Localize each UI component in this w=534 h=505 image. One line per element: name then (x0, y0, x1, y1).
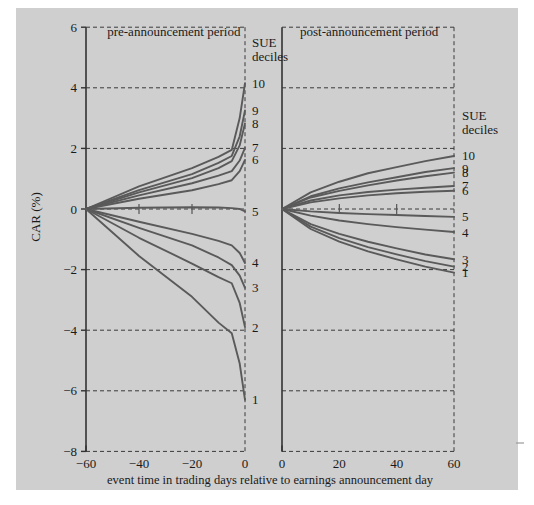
decile-label-pre-8: 8 (252, 116, 259, 131)
panel-title-pre: pre-announcement period (107, 24, 241, 39)
legend-title-post-line1: SUE (462, 108, 487, 123)
decile-label-pre-6: 6 (252, 152, 259, 167)
xtick-label-post-1: 20 (333, 456, 346, 471)
text-layer: −8−6−4−20246−60−40−2000204060event time … (28, 20, 498, 488)
xtick-label-pre-2: −20 (182, 456, 202, 471)
decile-label-pre-3: 3 (252, 280, 259, 295)
series-layer (86, 83, 454, 400)
xtick-label-post-2: 40 (390, 456, 403, 471)
decile-label-post-5: 5 (462, 209, 469, 224)
figure-container: −8−6−4−20246−60−40−2000204060event time … (0, 0, 534, 505)
decile-label-pre-10: 10 (252, 76, 265, 91)
decile-label-post-6: 6 (462, 183, 469, 198)
decile-label-pre-2: 2 (252, 320, 259, 335)
series-line-post-decile-2 (282, 209, 454, 267)
legend-title-pre-line1: SUE (252, 35, 277, 50)
decile-label-pre-4: 4 (252, 255, 259, 270)
y-axis-title: CAR (%) (28, 192, 43, 241)
ytick-label--2: −2 (63, 262, 77, 277)
xtick-label-pre-0: −60 (76, 456, 96, 471)
axes-layer (81, 27, 524, 451)
ytick-label--6: −6 (63, 383, 77, 398)
series-line-pre-decile-8 (86, 124, 245, 209)
xtick-label-post-3: 60 (448, 456, 461, 471)
ytick-label-0: 0 (71, 202, 78, 217)
chart-canvas: −8−6−4−20246−60−40−2000204060event time … (0, 0, 534, 505)
decile-label-post-1: 1 (462, 265, 469, 280)
ytick-label-2: 2 (71, 141, 78, 156)
ytick-label-6: 6 (71, 20, 78, 35)
series-line-post-decile-4 (282, 209, 454, 232)
xtick-label-pre-1: −40 (129, 456, 149, 471)
xtick-label-pre-3: 0 (242, 456, 249, 471)
x-axis-title: event time in trading days relative to e… (107, 473, 434, 487)
legend-title-post-line2: deciles (462, 122, 498, 137)
legend-title-pre-line2: deciles (252, 49, 288, 64)
xtick-label-post-0: 0 (279, 456, 286, 471)
panel-title-post: post-announcement period (300, 24, 439, 39)
series-line-pre-decile-1 (86, 209, 245, 400)
series-line-pre-decile-2 (86, 209, 245, 327)
decile-label-pre-5: 5 (252, 204, 259, 219)
decile-label-pre-1: 1 (252, 392, 259, 407)
ytick-label-4: 4 (71, 80, 78, 95)
ytick-label--4: −4 (63, 323, 77, 338)
decile-label-post-4: 4 (462, 225, 469, 240)
